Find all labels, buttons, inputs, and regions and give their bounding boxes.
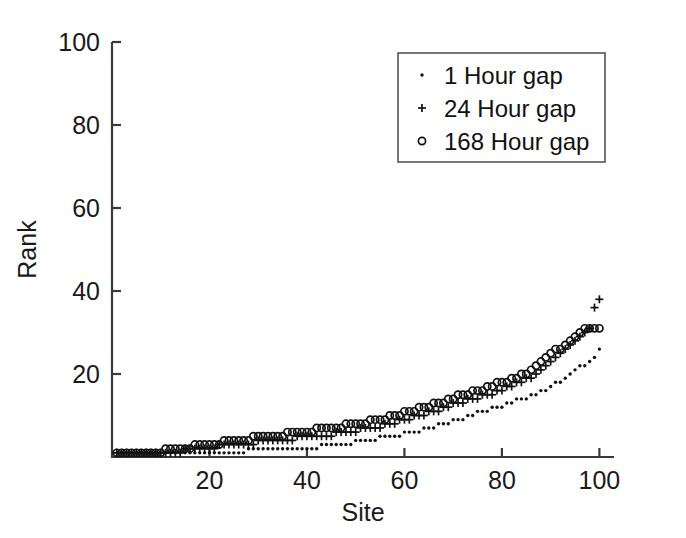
data-point (398, 435, 401, 438)
data-point (554, 381, 557, 384)
data-point (578, 364, 581, 367)
data-point (237, 451, 240, 454)
data-point (520, 397, 523, 400)
data-point (281, 447, 284, 450)
y-tick-label: 40 (72, 277, 100, 305)
data-point (432, 426, 435, 429)
x-tick-label: 40 (293, 466, 321, 494)
data-point (325, 443, 328, 446)
data-point (261, 447, 264, 450)
data-point (339, 443, 342, 446)
data-point (525, 397, 528, 400)
data-point (583, 364, 586, 367)
x-axis-title: Site (341, 498, 384, 526)
data-point (437, 422, 440, 425)
data-point (422, 426, 425, 429)
data-point (403, 430, 406, 433)
data-point (408, 430, 411, 433)
data-point (466, 414, 469, 417)
data-point (598, 347, 601, 350)
data-point (544, 389, 547, 392)
y-axis-title: Rank (13, 220, 41, 279)
data-point (427, 426, 430, 429)
data-point (349, 443, 352, 446)
data-point (515, 397, 518, 400)
data-point (378, 435, 381, 438)
legend: 1 Hour gap24 Hour gap168 Hour gap (398, 53, 605, 162)
data-point (330, 443, 333, 446)
data-point (218, 451, 221, 454)
data-point (534, 393, 537, 396)
data-point (359, 439, 362, 442)
data-point (300, 447, 303, 450)
data-point (412, 430, 415, 433)
data-point (588, 360, 591, 363)
data-point (564, 376, 567, 379)
scatter-plot-figure: 2040608010020406080100SiteRank 1 Hour ga… (0, 0, 686, 538)
data-point (388, 435, 391, 438)
data-point (539, 389, 542, 392)
data-point (315, 447, 318, 450)
data-point (222, 451, 225, 454)
data-point (476, 410, 479, 413)
x-tick-label: 80 (488, 466, 516, 494)
data-point (257, 447, 260, 450)
data-point (286, 447, 289, 450)
data-point (447, 422, 450, 425)
data-point (334, 443, 337, 446)
data-point (549, 385, 552, 388)
legend-label: 1 Hour gap (444, 62, 563, 89)
data-point (495, 406, 498, 409)
data-point (417, 430, 420, 433)
x-tick-label: 20 (196, 466, 224, 494)
data-point (481, 410, 484, 413)
data-point (486, 410, 489, 413)
legend-entry-2[interactable]: 168 Hour gap (418, 128, 589, 155)
x-tick-label: 100 (579, 466, 621, 494)
y-tick-label: 100 (58, 28, 100, 56)
data-point (296, 447, 299, 450)
data-point (291, 447, 294, 450)
data-point (568, 372, 571, 375)
data-point (305, 447, 308, 450)
data-point (383, 435, 386, 438)
y-tick-label: 60 (72, 194, 100, 222)
legend-label: 168 Hour gap (444, 128, 589, 155)
data-point (266, 447, 269, 450)
data-point (393, 435, 396, 438)
data-point (593, 356, 596, 359)
data-point (461, 418, 464, 421)
data-point (354, 439, 357, 442)
data-point (490, 406, 493, 409)
data-point (451, 418, 454, 421)
data-point (232, 451, 235, 454)
data-point (242, 451, 245, 454)
data-point (529, 393, 532, 396)
data-point (276, 447, 279, 450)
data-point (442, 422, 445, 425)
data-point (369, 439, 372, 442)
data-point (344, 443, 347, 446)
data-point (320, 443, 323, 446)
data-point (505, 401, 508, 404)
data-point (500, 406, 503, 409)
x-tick-label: 60 (391, 466, 419, 494)
legend-label: 24 Hour gap (444, 95, 576, 122)
data-point (559, 381, 562, 384)
data-point (364, 439, 367, 442)
data-point (510, 401, 513, 404)
data-point (227, 451, 230, 454)
data-point (310, 447, 313, 450)
data-point (373, 439, 376, 442)
data-point (271, 447, 274, 450)
y-tick-label: 20 (72, 360, 100, 388)
y-tick-label: 80 (72, 111, 100, 139)
data-point (573, 368, 576, 371)
data-point (471, 414, 474, 417)
legend-marker-dot (420, 73, 423, 76)
plot-canvas: 2040608010020406080100SiteRank 1 Hour ga… (0, 0, 686, 538)
data-point (456, 418, 459, 421)
